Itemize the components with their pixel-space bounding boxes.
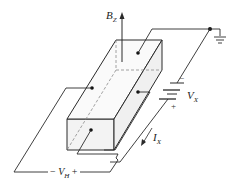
ix-sub: X xyxy=(157,138,161,146)
battery-plus-sign: + xyxy=(171,102,176,111)
applied-voltage-label: VX xyxy=(187,90,198,104)
battery-icon xyxy=(159,83,184,99)
vx-sub: X xyxy=(194,96,198,104)
hall-effect-diagram xyxy=(0,0,237,184)
vx-main: V xyxy=(187,89,194,101)
bar-front-face xyxy=(67,119,114,150)
vh-minus: − xyxy=(50,166,58,177)
bz-main: B xyxy=(106,9,113,21)
bz-sub: Z xyxy=(113,16,117,24)
current-label: IX xyxy=(153,132,161,146)
ground-icon xyxy=(214,37,226,43)
hall-voltage-label: − VH + xyxy=(50,167,77,180)
vh-plus: + xyxy=(69,166,77,177)
magnetic-field-label: BZ xyxy=(106,10,117,24)
current-arrow xyxy=(141,128,152,146)
battery-minus-sign: − xyxy=(179,74,184,83)
